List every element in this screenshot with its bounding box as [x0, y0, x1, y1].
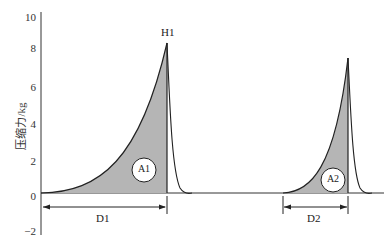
y-tick-6: 6 — [16, 81, 36, 93]
a1-label: A1 — [132, 163, 156, 174]
y-tick-minus2: −2 — [16, 225, 36, 237]
d1-arrow-left — [43, 205, 50, 210]
d1-label: D1 — [96, 212, 109, 224]
y-axis-label: 压缩力/kg — [12, 96, 28, 156]
h1-label: H1 — [161, 26, 174, 38]
y-tick-8: 8 — [16, 42, 36, 54]
d2-label: D2 — [307, 212, 320, 224]
d2-arrow-right — [340, 205, 347, 210]
a2-label: A2 — [321, 173, 345, 184]
d2-arrow-left — [284, 205, 291, 210]
y-tick-0: 0 — [16, 190, 36, 202]
chart-canvas — [0, 0, 392, 246]
d1-arrow-right — [159, 205, 166, 210]
peak2-decay — [348, 58, 372, 193]
peak1-decay — [167, 43, 192, 193]
y-tick-2: 2 — [16, 155, 36, 167]
y-tick-10: 10 — [16, 11, 36, 23]
